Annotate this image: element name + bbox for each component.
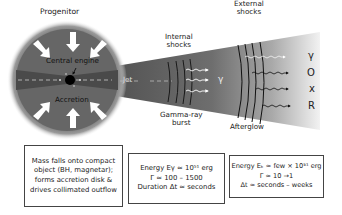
band-optical: O — [307, 67, 315, 78]
band-xray: x — [309, 83, 315, 94]
band-radio: R — [308, 100, 315, 111]
label-central-engine: Central engine — [46, 57, 99, 65]
label-accretion: Accretion — [55, 96, 89, 104]
label-external-shocks: External shocks — [234, 0, 264, 17]
prompt-info-box: Energy Eγ ≈ 10⁵¹ erg Γ ≈ 100 – 1500 Dura… — [128, 153, 225, 204]
afterglow-info-box: Energy Eₖ ≈ few × 10⁵¹ erg Γ ≈ 10 →1 Δt … — [229, 155, 324, 198]
prompt-gamma-symbol: γ — [218, 74, 223, 84]
band-gamma: γ — [308, 50, 314, 61]
label-internal-shocks: Internal shocks — [165, 33, 193, 50]
label-progenitor: Progenitor — [40, 8, 79, 16]
progenitor-info-box: Mass falls onto compact object (BH, magn… — [24, 145, 123, 207]
label-afterglow: Afterglow — [230, 123, 264, 131]
label-jet: Jet — [123, 76, 132, 84]
central-engine — [65, 75, 75, 85]
label-gamma-ray-burst: Gamma-ray burst — [160, 111, 203, 128]
